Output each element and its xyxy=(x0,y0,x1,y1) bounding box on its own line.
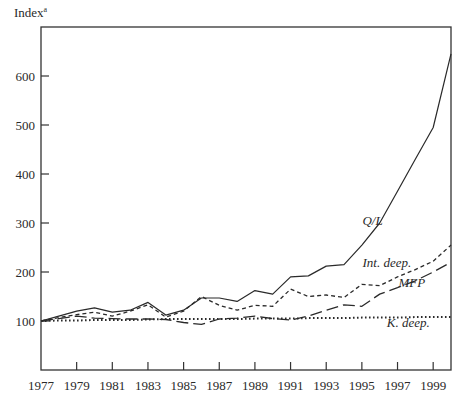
y-tick-label: 600 xyxy=(16,69,36,84)
x-tick-label: 1995 xyxy=(349,378,375,393)
x-tick-label: 1991 xyxy=(278,378,304,393)
y-tick-label: 400 xyxy=(16,167,36,182)
x-tick-label: 1993 xyxy=(313,378,339,393)
series-label: K. deep. xyxy=(386,315,430,330)
x-tick-label: 1977 xyxy=(28,378,55,393)
x-tick-label: 1983 xyxy=(135,378,161,393)
series-label: Int. deep. xyxy=(361,255,411,270)
series-label: Q/L xyxy=(362,213,382,228)
y-tick-label: 100 xyxy=(16,314,36,329)
x-tick-label: 1979 xyxy=(64,378,90,393)
x-tick-label: 1985 xyxy=(171,378,197,393)
line-chart: 1002003004005006001977197919811983198519… xyxy=(0,0,464,405)
series-label: MFP xyxy=(397,275,425,290)
x-tick-label: 1999 xyxy=(420,378,446,393)
x-tick-label: 1987 xyxy=(206,378,233,393)
y-tick-label: 500 xyxy=(16,118,36,133)
y-tick-label: 300 xyxy=(16,216,36,231)
x-tick-label: 1989 xyxy=(242,378,268,393)
y-tick-label: 200 xyxy=(16,265,36,280)
x-tick-label: 1981 xyxy=(99,378,125,393)
x-tick-label: 1997 xyxy=(385,378,412,393)
